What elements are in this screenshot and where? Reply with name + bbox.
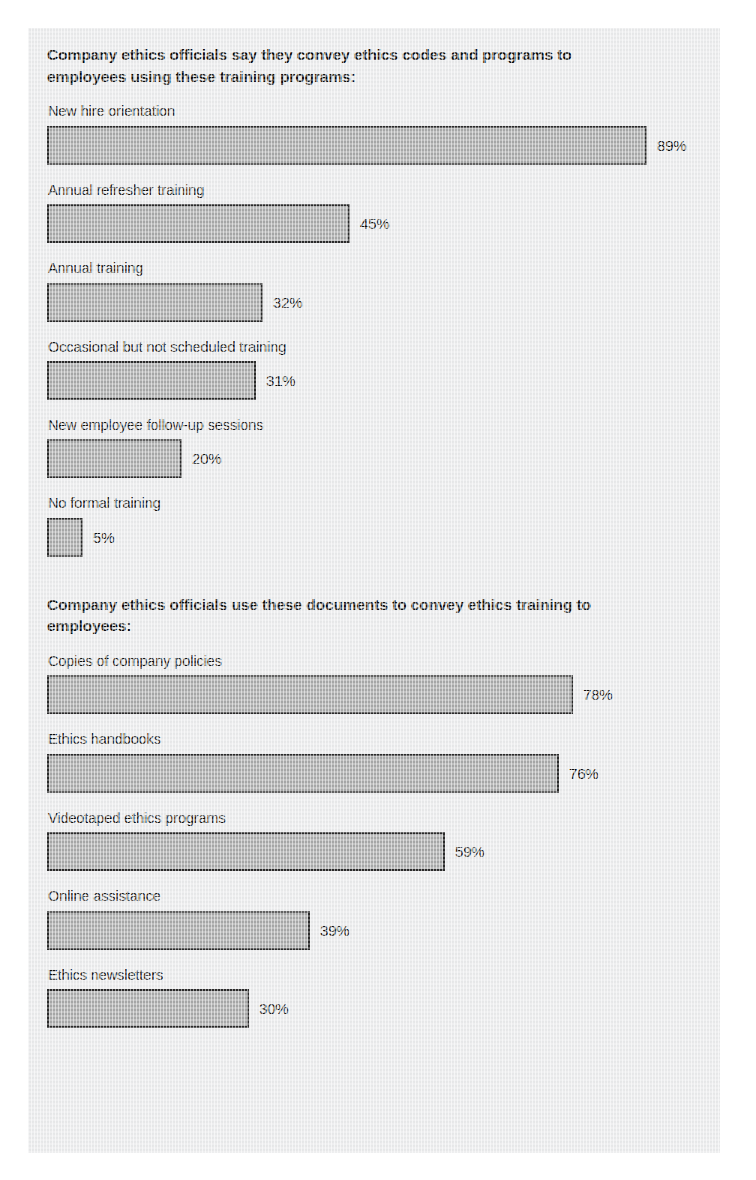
bar-group: No formal training5% xyxy=(47,495,700,556)
bar-label: Copies of company policies xyxy=(48,653,700,670)
bar-row: 45% xyxy=(47,204,700,243)
section-1-bar-list: New hire orientation89%Annual refresher … xyxy=(47,103,700,556)
bar-value-label: 39% xyxy=(320,922,349,939)
bar-group: Videotaped ethics programs59% xyxy=(47,810,700,871)
bar-value-label: 30% xyxy=(259,1000,288,1017)
bar-row: 76% xyxy=(47,754,700,793)
bar-value-label: 32% xyxy=(273,294,302,311)
bar-rect xyxy=(47,832,445,871)
bar-value-label: 5% xyxy=(93,529,114,546)
bar-group: Ethics handbooks76% xyxy=(47,731,700,792)
bar-label: New employee follow-up sessions xyxy=(48,417,700,434)
bar-label: Occasional but not scheduled training xyxy=(48,339,700,356)
chart-figure: Company ethics officials say they convey… xyxy=(28,28,720,1153)
bar-rect xyxy=(47,361,256,400)
bar-rect xyxy=(47,439,182,478)
bar-group: Ethics newsletters30% xyxy=(47,967,700,1028)
bar-row: 31% xyxy=(47,361,700,400)
bar-group: New employee follow-up sessions20% xyxy=(47,417,700,478)
bar-rect xyxy=(47,989,249,1028)
bar-group: Copies of company policies78% xyxy=(47,653,700,714)
bar-rect xyxy=(47,126,647,165)
bar-value-label: 20% xyxy=(192,450,221,467)
bar-row: 89% xyxy=(47,126,700,165)
section-2-heading: Company ethics officials use these docum… xyxy=(47,576,647,637)
bar-value-label: 31% xyxy=(266,372,295,389)
bar-rect xyxy=(47,283,263,322)
bar-value-label: 78% xyxy=(583,686,612,703)
bar-row: 5% xyxy=(47,518,700,557)
bar-row: 32% xyxy=(47,283,700,322)
section-2-bar-list: Copies of company policies78%Ethics hand… xyxy=(47,653,700,1028)
bar-row: 30% xyxy=(47,989,700,1028)
bar-label: Online assistance xyxy=(48,888,700,905)
bar-value-label: 59% xyxy=(455,843,484,860)
bar-rect xyxy=(47,754,559,793)
bar-row: 20% xyxy=(47,439,700,478)
bar-value-label: 45% xyxy=(360,215,389,232)
bar-label: Ethics newsletters xyxy=(48,967,700,984)
bar-group: Online assistance39% xyxy=(47,888,700,949)
bar-label: Ethics handbooks xyxy=(48,731,700,748)
bar-row: 59% xyxy=(47,832,700,871)
bar-rect xyxy=(47,518,83,557)
bar-row: 39% xyxy=(47,911,700,950)
bar-label: New hire orientation xyxy=(48,103,700,120)
bar-group: New hire orientation89% xyxy=(47,103,700,164)
bar-rect xyxy=(47,911,310,950)
bar-label: No formal training xyxy=(48,495,700,512)
bar-value-label: 89% xyxy=(657,137,686,154)
bar-label: Videotaped ethics programs xyxy=(48,810,700,827)
bar-rect xyxy=(47,204,350,243)
bar-label: Annual refresher training xyxy=(48,182,700,199)
bar-row: 78% xyxy=(47,675,700,714)
section-divider-spacer xyxy=(47,557,700,576)
bar-rect xyxy=(47,675,573,714)
bar-label: Annual training xyxy=(48,260,700,277)
bar-group: Annual training32% xyxy=(47,260,700,321)
section-1-heading: Company ethics officials say they convey… xyxy=(47,28,647,87)
bar-group: Occasional but not scheduled training31% xyxy=(47,339,700,400)
bar-value-label: 76% xyxy=(569,765,598,782)
bar-group: Annual refresher training45% xyxy=(47,182,700,243)
